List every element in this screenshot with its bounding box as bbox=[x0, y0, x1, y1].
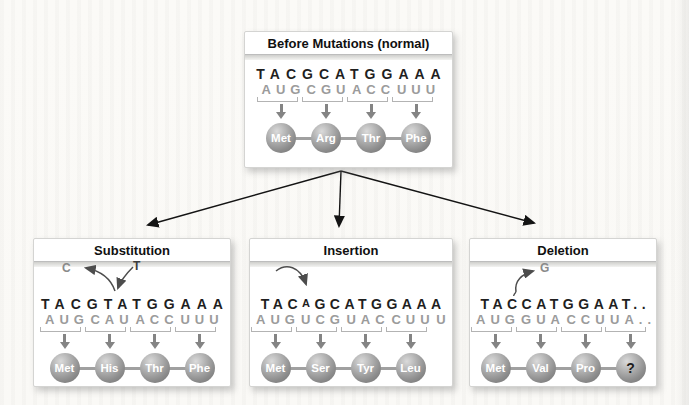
codon-bracket bbox=[516, 327, 557, 332]
translation-arrow-icon bbox=[195, 334, 205, 349]
translation-arrow-icon bbox=[105, 334, 115, 349]
mrna-codon-group: UA.. bbox=[605, 312, 656, 332]
dna-before-insert: TAC bbox=[261, 296, 302, 312]
translation-arrow-icon bbox=[321, 104, 331, 119]
dna-sequence: TACCATGGAAT.. bbox=[470, 296, 656, 312]
codon-bracket bbox=[257, 97, 298, 102]
translation-arrow-icon bbox=[626, 334, 636, 349]
panel-title: Before Mutations (normal) bbox=[245, 32, 452, 55]
mrna-overflow-base: U bbox=[436, 313, 445, 326]
panel-title: Deletion bbox=[470, 239, 656, 262]
codon-bracket bbox=[302, 97, 343, 102]
amino-acid-sphere: Pro bbox=[571, 353, 601, 383]
translation-arrow-icon bbox=[406, 334, 416, 349]
arrow-to-insertion bbox=[339, 171, 341, 226]
arrow-to-substitution bbox=[148, 171, 341, 225]
codon-bracket bbox=[561, 327, 602, 332]
mrna-codon: UUU bbox=[175, 313, 223, 326]
amino-acid-sphere: His bbox=[95, 353, 125, 383]
mrna-codon-group: UUU bbox=[392, 82, 440, 102]
codon-column: UAC Tyr bbox=[343, 312, 388, 383]
amino-acid-sphere: Thr bbox=[140, 353, 170, 383]
amino-acid-sphere: Met bbox=[481, 353, 511, 383]
mrna-codon-group: CAU bbox=[85, 312, 133, 332]
codon-bracket bbox=[40, 327, 81, 332]
codon-column: CUU Leu bbox=[388, 312, 433, 383]
amino-acid-sphere: Tyr bbox=[351, 353, 381, 383]
mrna-codon-group: CGU bbox=[302, 82, 351, 102]
translation-arrow-icon bbox=[361, 334, 371, 349]
amino-acid-sphere: Met bbox=[261, 353, 291, 383]
codon-column: AUG Met bbox=[473, 312, 518, 383]
translation-arrow-icon bbox=[411, 104, 421, 119]
mrna-codon: CUU bbox=[386, 313, 434, 326]
mrna-codon: AUG bbox=[251, 313, 300, 326]
insertion-arrow-icon bbox=[250, 263, 452, 290]
translation-arrow-icon bbox=[581, 334, 591, 349]
mrna-codon-group: AUG bbox=[257, 82, 306, 102]
codon-bracket bbox=[296, 327, 337, 332]
codon-bracket bbox=[85, 327, 126, 332]
codon-column: UUU Phe bbox=[177, 312, 222, 383]
codon-bracket bbox=[175, 327, 216, 332]
codon-bracket bbox=[251, 327, 292, 332]
amino-acid-sphere: Thr bbox=[356, 123, 386, 153]
amino-acid-sphere-unknown: ? bbox=[616, 353, 646, 383]
translation-arrow-icon bbox=[536, 334, 546, 349]
mrna-codon-group: UUU bbox=[175, 312, 223, 332]
codon-bracket bbox=[347, 97, 388, 102]
translation-arrow-icon bbox=[491, 334, 501, 349]
panel-title: Insertion bbox=[250, 239, 452, 262]
amino-acid-sphere: Phe bbox=[401, 123, 431, 153]
codon-bracket bbox=[130, 327, 171, 332]
mutation-diagram: Before Mutations (normal) TACGCATGGAAA A… bbox=[0, 0, 689, 405]
substitution-arrows-icon bbox=[34, 261, 230, 295]
mrna-codon: ACC bbox=[130, 313, 178, 326]
mrna-codon-group: CUU bbox=[386, 312, 434, 332]
codon-column: UA.. ? bbox=[608, 312, 653, 383]
arrow-to-deletion bbox=[341, 171, 534, 223]
inserted-base: A bbox=[302, 297, 314, 309]
dna-sequence: TACGTATGGAAA bbox=[34, 296, 230, 312]
mrna-codon: UA.. bbox=[605, 313, 656, 326]
codon-columns: AUG Met GUA Val CCU Pro UA.. ? bbox=[470, 312, 656, 383]
mrna-codon-group: AUG bbox=[251, 312, 300, 332]
mrna-codon-group: UCG bbox=[296, 312, 345, 332]
codon-column: CAU His bbox=[87, 312, 132, 383]
translation-arrow-icon bbox=[150, 334, 160, 349]
codon-column: ACC Thr bbox=[132, 312, 177, 383]
codon-column: CCU Pro bbox=[563, 312, 608, 383]
codon-bracket bbox=[341, 327, 382, 332]
amino-acid-sphere: Arg bbox=[311, 123, 341, 153]
translation-arrow-icon bbox=[60, 334, 70, 349]
mrna-codon: AUG bbox=[257, 83, 306, 96]
dna-sequence: TACAGCATGGAAA bbox=[250, 296, 452, 312]
codon-columns: AUG Met CAU His ACC Thr UUU Phe bbox=[34, 312, 230, 383]
mrna-codon: UCG bbox=[296, 313, 345, 326]
codon-bracket bbox=[386, 327, 427, 332]
amino-acid-sphere: Phe bbox=[185, 353, 215, 383]
codon-column: AUG Met bbox=[42, 312, 87, 383]
amino-acid-sphere: Leu bbox=[396, 353, 426, 383]
mrna-codon-group: AUG bbox=[471, 312, 520, 332]
panel-deletion: Deletion G TACCATGGAAT.. AUG Met GUA Val… bbox=[469, 238, 657, 387]
mrna-codon: CCU bbox=[561, 313, 609, 326]
translation-arrow-icon bbox=[276, 104, 286, 119]
mrna-codon: CAU bbox=[85, 313, 133, 326]
codon-column: ACC Thr bbox=[349, 82, 394, 153]
amino-acid-sphere: Ser bbox=[306, 353, 336, 383]
codon-column-overflow: U bbox=[433, 312, 449, 383]
mrna-codon-group: ACC bbox=[130, 312, 178, 332]
mrna-codon: UAC bbox=[341, 313, 389, 326]
codon-bracket bbox=[471, 327, 512, 332]
dna-sequence: TACGCATGGAAA bbox=[245, 66, 452, 82]
mrna-codon: CGU bbox=[302, 83, 351, 96]
codon-bracket bbox=[392, 97, 433, 102]
panel-insertion: Insertion TACAGCATGGAAA AUG Met UCG Ser … bbox=[249, 238, 453, 387]
mrna-codon-group: UAC bbox=[341, 312, 389, 332]
amino-acid-sphere: Met bbox=[50, 353, 80, 383]
panel-title: Substitution bbox=[34, 239, 230, 262]
mrna-codon: ACC bbox=[347, 83, 395, 96]
codon-columns: AUG Met CGU Arg ACC Thr UUU Phe bbox=[245, 82, 452, 153]
mrna-codon-group: GUA bbox=[516, 312, 565, 332]
